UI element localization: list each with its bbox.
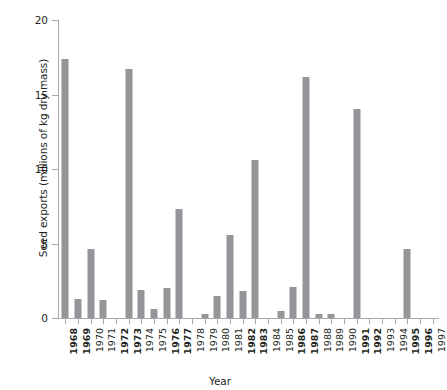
bar [302, 77, 309, 318]
x-axis-tick [268, 319, 269, 324]
x-axis-tick-label: 1968 [69, 328, 79, 354]
x-axis-tick [306, 319, 307, 324]
y-axis-tick [52, 169, 58, 170]
x-axis-tick-label: 1997 [437, 328, 447, 352]
y-axis-tick [52, 244, 58, 245]
x-axis-tick-label: 1993 [386, 328, 396, 352]
bar-slot [72, 20, 85, 318]
y-axis-tick-label: 5 [8, 239, 48, 249]
x-axis-tick [91, 319, 92, 324]
y-axis-tick-label: 10 [8, 164, 48, 174]
bar [176, 209, 183, 318]
x-axis-tick-label: 1975 [158, 328, 168, 352]
x-axis-tick [357, 319, 358, 324]
x-axis-tick [293, 319, 294, 324]
y-axis-tick-label: 20 [8, 15, 48, 25]
y-axis-tick-label: 0 [8, 313, 48, 323]
x-axis-tick-label: 1982 [247, 328, 257, 354]
x-axis-tick [230, 319, 231, 324]
x-axis-tick-label: 1991 [361, 328, 371, 354]
x-axis-tick [167, 319, 168, 324]
bar-slot [338, 20, 351, 318]
x-axis-tick [205, 319, 206, 324]
x-axis-tick [116, 319, 117, 324]
x-axis-tick-label: 1972 [120, 328, 130, 354]
x-axis-tick [243, 319, 244, 324]
bar [163, 288, 170, 318]
bar [290, 287, 297, 318]
x-axis-tick [433, 319, 434, 324]
bar [201, 314, 208, 318]
bar-slot [350, 20, 363, 318]
x-axis-tick-label: 1992 [373, 328, 383, 354]
bar [315, 314, 322, 318]
x-axis-tick [281, 319, 282, 324]
x-axis-tick-label: 1973 [133, 328, 143, 354]
bar [239, 291, 246, 318]
bar-slot [287, 20, 300, 318]
x-axis-tick [103, 319, 104, 324]
bar-slot [426, 20, 439, 318]
bar [87, 249, 94, 318]
x-axis-tick [407, 319, 408, 324]
x-axis-tick [420, 319, 421, 324]
bar-slot [198, 20, 211, 318]
x-axis-tick-label: 1983 [259, 328, 269, 354]
bar-slot [211, 20, 224, 318]
x-axis-tick-label: 1980 [221, 328, 231, 352]
x-axis-tick [141, 319, 142, 324]
bar [226, 235, 233, 318]
bar-slot [135, 20, 148, 318]
bar-slot [274, 20, 287, 318]
x-axis-tick-label: 1990 [348, 328, 358, 352]
bar-slot [122, 20, 135, 318]
x-axis-tick-label: 1978 [196, 328, 206, 352]
bar-slot [262, 20, 275, 318]
x-axis-tick-label: 1988 [323, 328, 333, 352]
x-axis-tick-label: 1976 [171, 328, 181, 354]
x-axis-tick [331, 319, 332, 324]
bar [277, 311, 284, 318]
x-axis-tick [217, 319, 218, 324]
x-axis-tick [319, 319, 320, 324]
bar [62, 59, 69, 318]
bar-slot [414, 20, 427, 318]
bar [214, 296, 221, 318]
x-axis-tick-label: 1994 [399, 328, 409, 352]
x-axis-tick-label: 1984 [272, 328, 282, 352]
bar [353, 109, 360, 318]
y-axis-title: Seed exports (millions of kg dry mass) [37, 8, 49, 308]
y-axis-tick-label: 15 [8, 90, 48, 100]
x-axis-tick-label: 1995 [411, 328, 421, 354]
x-axis-tick [65, 319, 66, 324]
bar-slot [186, 20, 199, 318]
bar [404, 249, 411, 318]
y-axis-tick [52, 318, 58, 319]
x-axis-tick-label: 1971 [107, 328, 117, 352]
x-axis-tick-label: 1970 [95, 328, 105, 352]
x-axis-tick [344, 319, 345, 324]
bar [100, 300, 107, 318]
bar-slot [110, 20, 123, 318]
x-axis-tick [369, 319, 370, 324]
bar-slot [388, 20, 401, 318]
bar-slot [376, 20, 389, 318]
bar-slot [84, 20, 97, 318]
bar-slot [312, 20, 325, 318]
plot-area [59, 20, 439, 318]
bar-slot [148, 20, 161, 318]
x-axis-tick [129, 319, 130, 324]
bar [328, 314, 335, 318]
x-axis-tick-label: 1985 [285, 328, 295, 352]
bar-slot [300, 20, 313, 318]
bar-slot [249, 20, 262, 318]
x-axis-tick-label: 1969 [82, 328, 92, 354]
bar-slot [97, 20, 110, 318]
y-axis-tick [52, 95, 58, 96]
x-axis-tick-label: 1979 [209, 328, 219, 352]
bar [125, 69, 132, 318]
x-axis-tick [78, 319, 79, 324]
bar-slot [160, 20, 173, 318]
x-axis-tick-label: 1996 [424, 328, 434, 354]
